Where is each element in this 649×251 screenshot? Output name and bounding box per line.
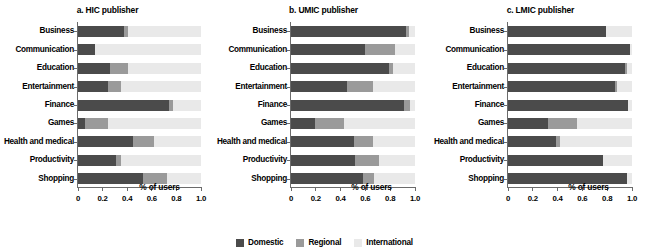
bar-segment-international [603, 155, 632, 166]
bar-row [78, 26, 201, 37]
bar-segment-international [95, 44, 201, 55]
x-axis-tick-label: 0.6 [147, 194, 157, 203]
y-axis-tick [504, 142, 507, 143]
category-label: Productivity [460, 154, 504, 166]
legend-label: International [366, 238, 413, 247]
legend-swatch-regional [296, 239, 304, 247]
x-axis-tick-label: 1.0 [410, 194, 420, 203]
category-label: Finance [258, 99, 287, 111]
y-axis-tick [504, 87, 507, 88]
bar-segment-international [173, 100, 201, 111]
x-axis-tick-label: 0.6 [360, 194, 370, 203]
bar-segment-domestic [78, 155, 116, 166]
y-axis-tick [504, 50, 507, 51]
legend-label: Regional [308, 238, 341, 247]
y-axis-tick [504, 68, 507, 69]
bar-segment-domestic [508, 118, 548, 129]
bar-segment-domestic [508, 100, 628, 111]
bar-row [78, 155, 201, 166]
bar-row [78, 44, 201, 55]
bar-segment-domestic [508, 44, 630, 55]
plot-wrap-b: BusinessCommunicationEducationEntertainm… [215, 22, 432, 222]
bar-segment-international [344, 118, 415, 129]
category-label: Health and medical [4, 136, 74, 148]
y-axis-tick [287, 179, 290, 180]
panel-hic-publisher: a. HIC publisher BusinessCommunicationEd… [0, 0, 215, 222]
bar-segment-domestic [291, 136, 354, 147]
y-axis-tick [287, 142, 290, 143]
bar-segment-regional [548, 118, 578, 129]
category-label: Games [48, 117, 74, 129]
legend-item-international[interactable]: International [354, 238, 413, 247]
bar-segment-domestic [508, 26, 606, 37]
bar-segment-international [627, 63, 632, 74]
x-axis-tick-label: 0.2 [97, 194, 107, 203]
bar-segment-domestic [291, 44, 365, 55]
bar-segment-domestic [508, 136, 556, 147]
bar-row [78, 81, 201, 92]
legend-label: Domestic [248, 238, 283, 247]
plot-area-b: 00.20.40.60.81.0 [291, 22, 415, 188]
category-label: Education [250, 62, 287, 74]
bar-segment-domestic [291, 81, 347, 92]
bar-segment-domestic [78, 63, 110, 74]
category-label: Communication [15, 44, 74, 56]
panel-title-c: c. LMIC publisher [432, 5, 649, 15]
plot-wrap-a: BusinessCommunicationEducationEntertainm… [0, 22, 215, 222]
bar-segment-domestic [78, 100, 169, 111]
bar-segment-domestic [508, 63, 625, 74]
x-axis-tick-label: 0.4 [122, 194, 132, 203]
y-axis-tick [74, 50, 77, 51]
category-label: Productivity [30, 154, 74, 166]
y-axis-tick [74, 68, 77, 69]
bar-segment-international [606, 26, 632, 37]
bar-row [291, 100, 415, 111]
x-axis-tick-label: 0 [76, 194, 80, 203]
bar-segment-domestic [291, 63, 389, 74]
category-label: Productivity [243, 154, 287, 166]
x-axis-tick-label: 0.8 [602, 194, 612, 203]
y-axis-tick [287, 160, 290, 161]
bar-row [508, 81, 632, 92]
bar-row [508, 63, 632, 74]
x-axis-title-c: % of users [432, 182, 649, 192]
category-label: Education [37, 62, 74, 74]
bar-row [291, 44, 415, 55]
category-label: Finance [475, 99, 504, 111]
panels-container: a. HIC publisher BusinessCommunicationEd… [0, 0, 649, 222]
bar-segment-regional [110, 63, 128, 74]
y-axis-tick [504, 160, 507, 161]
bar-segment-international [373, 81, 415, 92]
category-label: Entertainment [235, 81, 287, 93]
chart-legend: DomesticRegionalInternational [0, 238, 649, 247]
legend-item-regional[interactable]: Regional [296, 238, 341, 247]
bar-row [508, 44, 632, 55]
x-axis-tick-label: 0.2 [311, 194, 321, 203]
category-label: Communication [228, 44, 287, 56]
category-label: Games [478, 117, 504, 129]
category-labels-c: BusinessCommunicationEducationEntertainm… [432, 22, 508, 188]
bar-segment-international [393, 63, 415, 74]
bar-segment-international [630, 44, 632, 55]
stacked-bar-chart-figure: a. HIC publisher BusinessCommunicationEd… [0, 0, 649, 251]
bar-row [508, 26, 632, 37]
bar-row [291, 118, 415, 129]
legend-item-domestic[interactable]: Domestic [236, 238, 283, 247]
bar-row [508, 155, 632, 166]
category-label: Games [261, 117, 287, 129]
plot-area-a: 00.20.40.60.81.0 [78, 22, 201, 188]
y-axis-tick [74, 105, 77, 106]
bar-segment-international [560, 136, 632, 147]
bar-segment-domestic [291, 100, 404, 111]
bar-row [78, 136, 201, 147]
y-axis-tick [74, 31, 77, 32]
bar-row [78, 118, 201, 129]
bar-segment-regional [108, 81, 122, 92]
bar-segment-international [121, 155, 201, 166]
bar-segment-regional [354, 136, 373, 147]
bar-segment-international [379, 155, 415, 166]
bar-segment-international [410, 100, 415, 111]
x-axis-tick-label: 0 [289, 194, 293, 203]
category-label: Health and medical [434, 136, 504, 148]
bar-segment-international [409, 26, 415, 37]
